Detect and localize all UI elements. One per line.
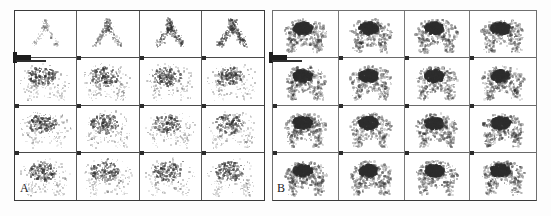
scan-cell[interactable] <box>202 11 264 58</box>
grid-tick-mark <box>470 56 474 60</box>
scan-frame <box>470 153 536 200</box>
grid-tick-mark <box>140 104 144 108</box>
grid-tick-mark <box>339 151 343 155</box>
scan-cell[interactable] <box>470 11 536 58</box>
scan-cell[interactable] <box>405 58 471 105</box>
scan-cell[interactable] <box>15 106 77 153</box>
scale-bar-rule <box>272 60 302 62</box>
scan-cell[interactable] <box>273 58 339 105</box>
scan-frame <box>77 11 138 57</box>
grid-tick-mark <box>202 151 206 155</box>
grid-tick-mark <box>405 56 409 60</box>
scan-frame <box>339 106 404 152</box>
scan-frame <box>140 58 201 104</box>
scan-frame <box>405 106 470 152</box>
scan-cell[interactable] <box>339 11 405 58</box>
scan-cell[interactable] <box>339 106 405 153</box>
scan-cell[interactable] <box>140 106 202 153</box>
scan-frame <box>405 153 470 200</box>
scan-cell[interactable] <box>15 11 77 58</box>
grid-tick-mark <box>77 151 81 155</box>
grid-tick-mark <box>470 104 474 108</box>
scan-cell[interactable] <box>202 153 264 200</box>
scan-frame <box>202 11 264 57</box>
grid-tick-mark <box>405 151 409 155</box>
scan-cell[interactable] <box>339 58 405 105</box>
scan-cell[interactable] <box>140 58 202 105</box>
scan-cell[interactable] <box>273 106 339 153</box>
scan-frame <box>470 11 536 57</box>
scan-frame <box>339 11 404 57</box>
scan-cell[interactable] <box>339 153 405 200</box>
scan-frame <box>339 58 404 104</box>
grid-tick-mark <box>202 56 206 60</box>
grid-tick-mark <box>140 151 144 155</box>
figure-container: A B <box>0 0 551 216</box>
scan-frame <box>140 153 201 200</box>
scan-frame <box>273 58 338 104</box>
scale-bar-rule <box>16 60 46 62</box>
scan-frame <box>15 11 76 57</box>
scan-cell[interactable] <box>140 11 202 58</box>
scan-cell[interactable] <box>15 58 77 105</box>
grid-tick-mark <box>15 104 19 108</box>
scan-frame <box>140 11 201 57</box>
scan-cell[interactable] <box>77 58 139 105</box>
scan-cell[interactable] <box>77 153 139 200</box>
panel-label-b: B <box>277 182 285 194</box>
scan-frame <box>273 11 338 57</box>
grid-tick-mark <box>405 104 409 108</box>
scan-frame <box>77 58 138 104</box>
scan-frame <box>405 58 470 104</box>
scan-frame <box>405 11 470 57</box>
grid-tick-mark <box>140 56 144 60</box>
scan-frame <box>273 106 338 152</box>
scan-frame <box>15 58 76 104</box>
scan-frame <box>470 58 536 104</box>
scan-frame <box>140 106 201 152</box>
scan-cell[interactable] <box>470 153 536 200</box>
grid-tick-mark <box>339 104 343 108</box>
grid-tick-mark <box>273 151 277 155</box>
grid-tick-mark <box>202 104 206 108</box>
scan-cell[interactable] <box>470 58 536 105</box>
scan-cell[interactable] <box>405 153 471 200</box>
scan-cell[interactable] <box>405 11 471 58</box>
scan-frame <box>15 106 76 152</box>
panel-a: A <box>14 10 265 201</box>
grid-tick-mark <box>470 151 474 155</box>
scan-frame <box>470 106 536 152</box>
scan-cell[interactable] <box>273 11 339 58</box>
scan-cell[interactable] <box>470 106 536 153</box>
scan-frame <box>202 58 264 104</box>
scan-frame <box>339 153 404 200</box>
panel-b: B <box>272 10 537 201</box>
scan-frame <box>77 106 138 152</box>
grid-tick-mark <box>15 151 19 155</box>
scan-cell[interactable] <box>140 153 202 200</box>
scan-cell[interactable] <box>202 106 264 153</box>
scan-cell[interactable] <box>202 58 264 105</box>
panel-label-a: A <box>20 182 29 194</box>
scan-cell[interactable] <box>77 106 139 153</box>
grid-tick-mark <box>77 104 81 108</box>
scan-cell[interactable] <box>405 106 471 153</box>
grid-tick-mark <box>339 56 343 60</box>
grid-tick-mark <box>273 104 277 108</box>
grid-tick-mark <box>77 56 81 60</box>
scan-frame <box>202 106 264 152</box>
scan-cell[interactable] <box>77 11 139 58</box>
scan-frame <box>202 153 264 200</box>
scan-frame <box>77 153 138 200</box>
